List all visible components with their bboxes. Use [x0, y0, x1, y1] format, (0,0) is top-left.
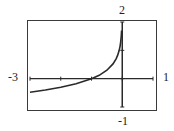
y-max-label: 2	[119, 4, 125, 16]
axes	[30, 22, 153, 107]
x-max-label: 1	[163, 71, 169, 83]
x-min-label: -3	[8, 71, 18, 83]
plot-area	[0, 0, 174, 131]
function-curve	[30, 31, 122, 93]
y-min-label: -1	[118, 115, 128, 127]
